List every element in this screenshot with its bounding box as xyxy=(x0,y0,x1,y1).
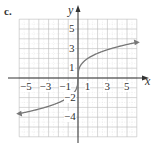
y-axis-arrow-icon xyxy=(76,5,81,12)
y-tick-label: 1 xyxy=(69,62,75,73)
x-tick-label: 5 xyxy=(124,81,130,92)
x-tick-label: −5 xyxy=(20,81,32,92)
x-tick-label: −3 xyxy=(40,81,52,92)
x-tick-label: 1 xyxy=(85,81,91,92)
x-tick-label: 3 xyxy=(104,81,110,92)
y-tick-label: 3 xyxy=(69,43,75,54)
x-axis-label: x xyxy=(145,74,150,89)
y-tick-label: 5 xyxy=(69,23,75,34)
y-axis-label: y xyxy=(68,3,73,18)
part-label: c. xyxy=(4,5,12,17)
cube-root-graph xyxy=(0,0,156,150)
y-tick-label: −2 xyxy=(64,92,76,103)
y-tick-label: −4 xyxy=(64,111,76,122)
